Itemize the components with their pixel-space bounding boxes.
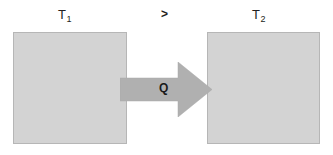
left-temperature-label: T1 <box>58 8 71 21</box>
heat-flow-label: Q <box>159 82 168 94</box>
right-temperature-symbol: T <box>252 7 260 22</box>
right-temperature-subscript: 2 <box>260 14 265 24</box>
cold-body-box <box>207 32 320 144</box>
hot-body-box <box>13 32 127 144</box>
right-temperature-label: T2 <box>252 8 265 21</box>
heat-transfer-diagram: T1 > T2 Q <box>0 0 333 155</box>
left-temperature-symbol: T <box>58 7 66 22</box>
relation-symbol: > <box>161 8 168 20</box>
left-temperature-subscript: 1 <box>66 14 71 24</box>
